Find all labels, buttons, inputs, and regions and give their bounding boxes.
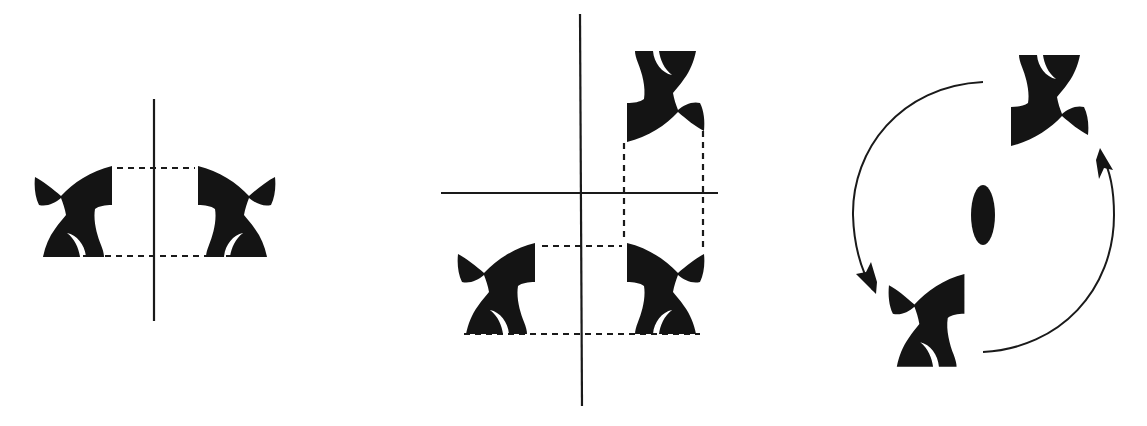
panel-two-mirrors [441,14,718,406]
rotation-arrow-right [983,156,1114,352]
rotation-axis-symbol [971,185,995,245]
motif-original [458,243,535,334]
mirror-line-vertical [580,14,582,406]
motif-reflected-twice [627,51,704,142]
rotation-arrow-left [853,82,983,290]
arrowhead-right [1096,148,1113,179]
panel-rotation [853,55,1114,367]
motif-reflected-vertical [627,243,704,334]
motif-rotated-180 [1011,55,1088,146]
motif-original [35,166,112,257]
panel-mirror-reflection [35,99,276,321]
motif-original [889,274,965,367]
motif-reflected [198,166,275,257]
arrowhead-left [856,262,877,294]
symmetry-diagram [0,0,1147,426]
